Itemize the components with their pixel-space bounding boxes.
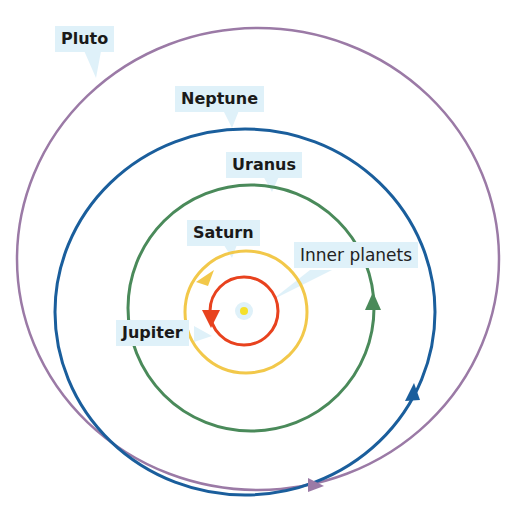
saturn-label: Saturn (187, 220, 260, 246)
inner-planets-label: Inner planets (294, 242, 418, 268)
pluto-label: Pluto (55, 26, 114, 52)
orbit-diagram-svg (0, 0, 516, 512)
uranus-arrow-icon (365, 292, 381, 310)
jupiter-label: Jupiter (116, 320, 189, 346)
jupiter-arrow-icon (202, 310, 220, 328)
uranus-label: Uranus (226, 152, 302, 178)
sun-icon (240, 307, 248, 315)
solar-system-diagram: Pluto Neptune Uranus Saturn Inner planet… (0, 0, 516, 512)
neptune-label: Neptune (175, 86, 264, 112)
jupiter-label-pointer (194, 326, 212, 342)
